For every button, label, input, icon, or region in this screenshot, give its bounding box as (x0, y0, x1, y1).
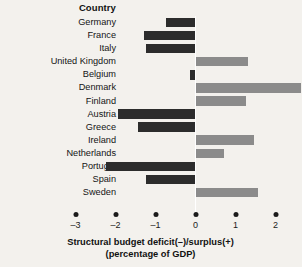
bar-united-kingdom (196, 57, 248, 67)
bar-row (0, 121, 301, 134)
x-tick-label: 0 (193, 220, 198, 230)
x-tick-dot (233, 212, 238, 217)
x-tick-label: –2 (110, 220, 120, 230)
x-axis-title-line2: (percentage of GDP) (0, 249, 301, 261)
bar-row (0, 81, 301, 94)
column-header-country: Country (0, 2, 116, 13)
bar-italy (146, 44, 196, 54)
plot-area (0, 16, 301, 212)
x-tick-label: –1 (150, 220, 160, 230)
structural-budget-chart: Country GermanyFranceItalyUnited Kingdom… (0, 0, 301, 267)
bar-row (0, 173, 301, 186)
bar-spain (146, 175, 196, 185)
bar-sweden (196, 188, 258, 198)
x-tick-dot (193, 212, 198, 217)
x-tick-dot (73, 212, 78, 217)
zero-axis-line (195, 16, 197, 212)
bar-row (0, 147, 301, 160)
bar-ireland (196, 135, 254, 145)
bar-row (0, 108, 301, 121)
bar-finland (196, 96, 246, 106)
bar-france (144, 31, 196, 41)
bar-row (0, 16, 301, 29)
x-tick-label: 2 (273, 220, 278, 230)
x-tick-label: 1 (233, 220, 238, 230)
bar-row (0, 160, 301, 173)
x-axis-title: Structural budget deficit(–)/surplus(+) … (0, 237, 301, 260)
bar-row (0, 42, 301, 55)
x-tick-label: –3 (70, 220, 80, 230)
bar-denmark (196, 83, 302, 93)
bar-row (0, 95, 301, 108)
bar-germany (166, 18, 196, 28)
bar-row (0, 68, 301, 81)
x-tick-dot (153, 212, 158, 217)
x-tick-dot (113, 212, 118, 217)
bar-austria (118, 109, 196, 119)
bar-row (0, 29, 301, 42)
bar-row (0, 186, 301, 199)
bar-portugal (106, 162, 196, 172)
x-tick-dot (273, 212, 278, 217)
bar-row (0, 55, 301, 68)
bar-netherlands (196, 149, 224, 159)
bar-row (0, 134, 301, 147)
x-axis: –3–2–1012 (0, 212, 301, 236)
bar-greece (138, 122, 196, 132)
x-axis-title-line1: Structural budget deficit(–)/surplus(+) (67, 237, 234, 247)
